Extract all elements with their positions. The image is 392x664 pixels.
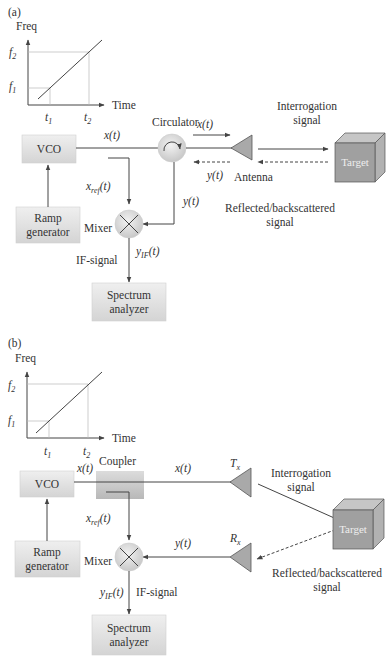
y-t-mixer-label: y(t) [182, 195, 199, 208]
target-cube-b: Target [333, 499, 384, 549]
x-t-circ-label: x(t) [196, 118, 213, 131]
y-t-to-mixer-line [143, 162, 174, 224]
reflected-dashed-arrow [257, 528, 340, 559]
frequency-ramp-chart-a: Freq f2 f1 Time t1 t2 [9, 20, 136, 126]
target-cube-a: Target [335, 133, 385, 182]
y-t-antenna-label: y(t) [206, 169, 223, 182]
reflected-label-2: signal [266, 216, 293, 229]
x-t-label: x(t) [103, 129, 120, 142]
y-axis-label: Freq [16, 20, 37, 33]
x-t-tx-label: x(t) [174, 462, 191, 475]
y-axis-label: Freq [15, 352, 36, 365]
x-t-vco-label: x(t) [76, 462, 93, 475]
f1-tick: f1 [8, 414, 15, 429]
interrogation-label-1: Interrogation [277, 100, 337, 113]
ramp-label-1: Ramp [33, 546, 61, 559]
spectrum-label-2: analyzer [110, 636, 149, 649]
xref-label: xref(t) [85, 180, 111, 195]
frequency-ramp-chart-b: Freq f2 f1 Time t1 t2 [8, 352, 136, 460]
antenna-icon-a [231, 135, 252, 160]
spectrum-label-2: analyzer [110, 303, 149, 316]
interrogation-label-2: signal [293, 114, 320, 127]
rx-label: Rx [229, 532, 241, 547]
reflected-label-1: Reflected/backscattered [272, 567, 382, 579]
tx-label: Tx [230, 457, 240, 472]
if-signal-label: IF-signal [136, 586, 178, 599]
vco-label: VCO [35, 478, 59, 490]
yif-label: yIF(t) [135, 245, 160, 260]
vco-label: VCO [37, 143, 61, 155]
f2-tick: f2 [8, 379, 15, 394]
circulator-label: Circulator [152, 116, 199, 128]
if-signal-label: IF-signal [76, 254, 118, 267]
target-label: Target [339, 523, 367, 535]
x-axis-label: Time [112, 99, 136, 111]
x-axis-label: Time [112, 432, 136, 444]
ramp-line [36, 372, 102, 433]
t1-tick: t1 [45, 111, 52, 126]
yif-label: yIF(t) [99, 586, 124, 601]
f2-tick: f2 [9, 46, 16, 61]
t2-tick: t2 [84, 111, 91, 126]
antenna-label: Antenna [234, 171, 273, 183]
ramp-label-2: generator [26, 226, 70, 239]
reflected-label-2: signal [313, 581, 340, 594]
circulator [158, 134, 186, 162]
panel-b: (b) Freq f2 f1 Time t1 t2 VCO x(t) Coupl… [8, 337, 384, 655]
t2-tick: t2 [83, 445, 90, 460]
rx-antenna-icon [230, 543, 251, 572]
spectrum-label-1: Spectrum [107, 622, 151, 635]
coupler-block [96, 471, 144, 499]
mixer-label: Mixer [84, 555, 112, 567]
tx-antenna-icon [230, 468, 251, 497]
interrogation-label-1: Interrogation [271, 467, 331, 480]
spectrum-analyzer-block-b [92, 615, 166, 655]
ramp-label-2: generator [25, 560, 69, 573]
coupler-label: Coupler [99, 455, 136, 468]
interrogation-label-2: signal [287, 481, 314, 494]
panel-label-a: (a) [8, 6, 21, 19]
fmcw-radar-diagram: (a) Freq f2 f1 Time t1 t2 VCO Ramp gener… [0, 0, 392, 664]
t1-tick: t1 [44, 445, 51, 460]
ramp-line [38, 40, 102, 99]
xref-label: xref(t) [85, 512, 111, 527]
spectrum-label-1: Spectrum [107, 289, 151, 302]
panel-label-b: (b) [8, 337, 22, 350]
y-t-rx-label: y(t) [174, 537, 191, 550]
panel-a: (a) Freq f2 f1 Time t1 t2 VCO Ramp gener… [8, 6, 385, 321]
mixer-label: Mixer [84, 222, 112, 234]
target-label: Target [341, 156, 369, 168]
ramp-label-1: Ramp [34, 212, 62, 225]
f1-tick: f1 [9, 80, 16, 95]
xref-line [108, 158, 129, 204]
reflected-label-1: Reflected/backscattered [225, 202, 335, 214]
